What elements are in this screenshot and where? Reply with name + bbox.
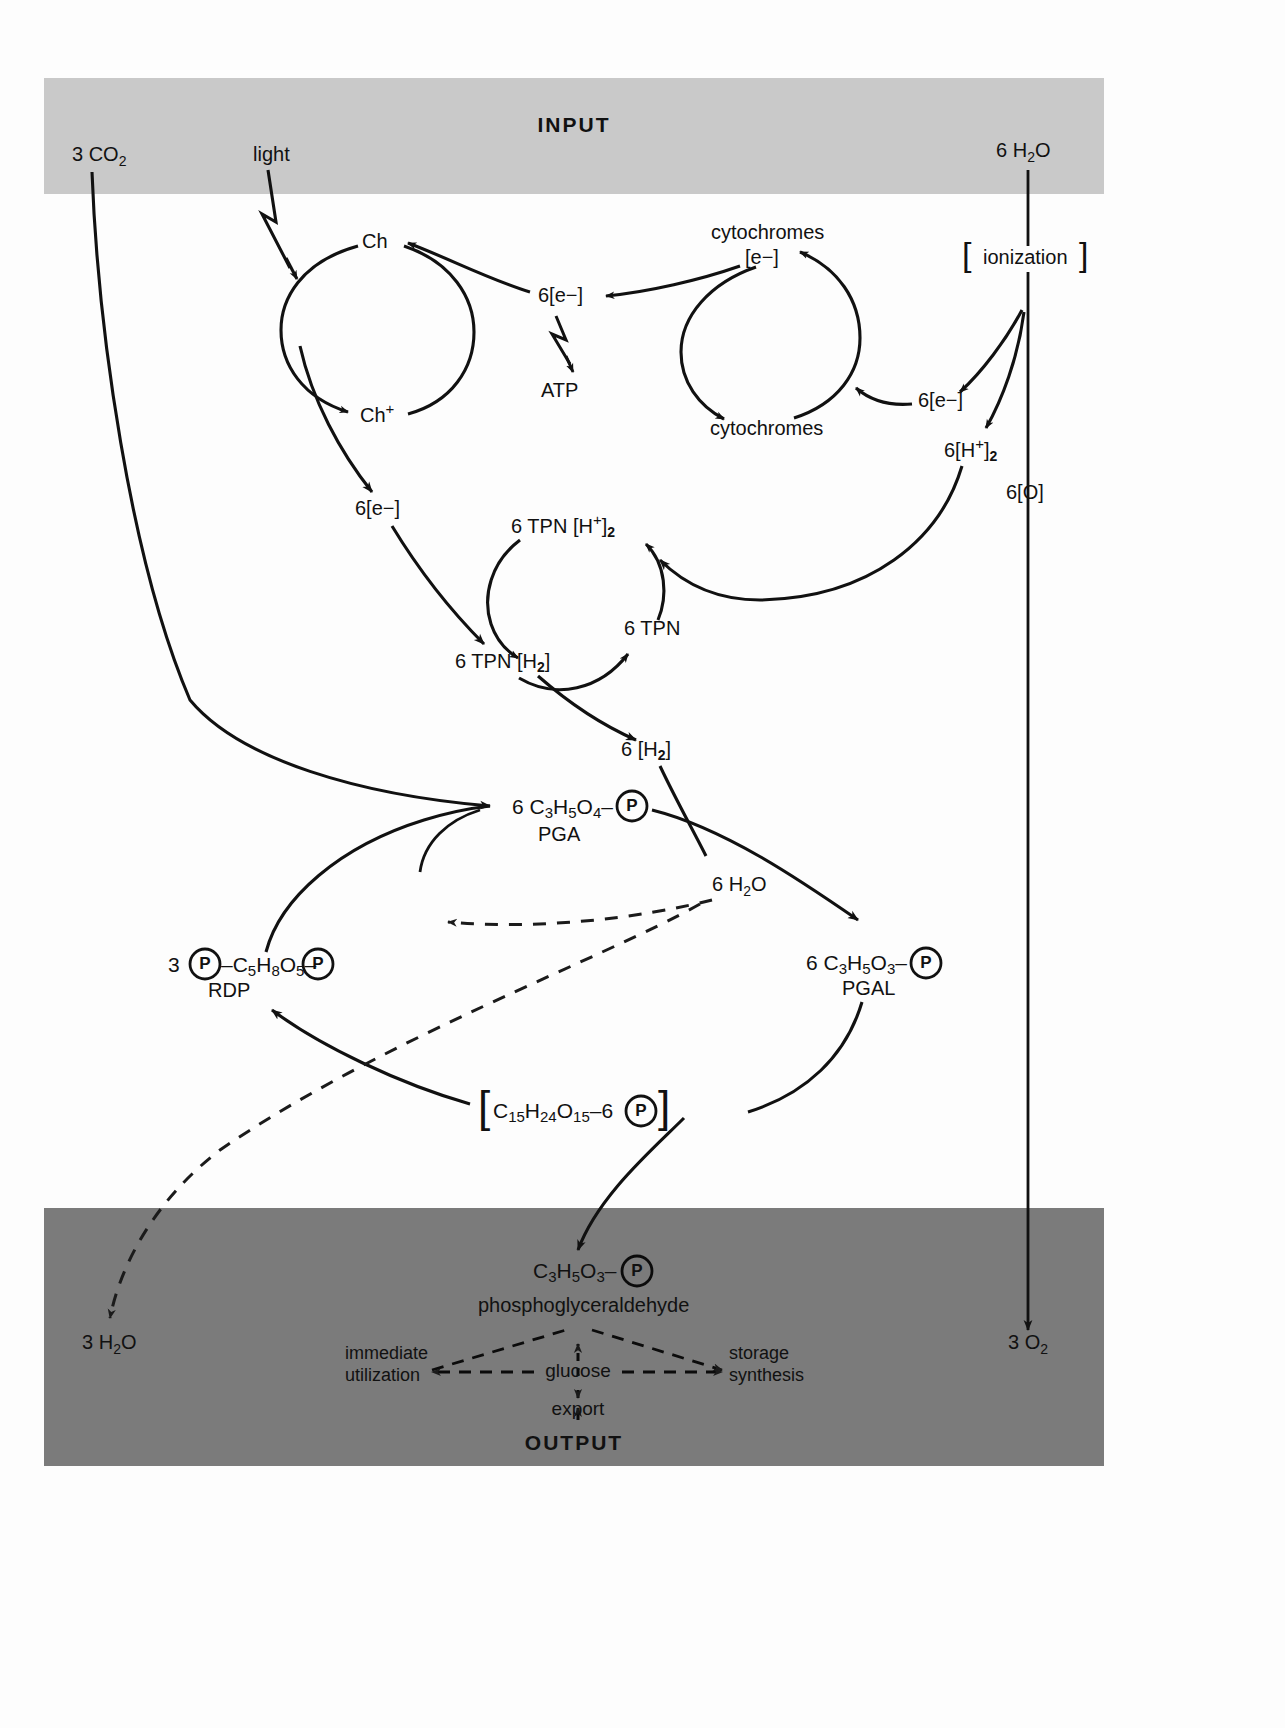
output-pgal-name-label: phosphoglyceraldehyde — [478, 1294, 689, 1316]
atp-label: ATP — [541, 379, 578, 401]
pgal-phosphate-glyph: P — [920, 953, 931, 972]
tpn-protons-label: 6 TPN [H+]2 — [511, 511, 615, 540]
light-lightning-arrow — [286, 258, 297, 279]
protons-label: 6[H+]2 — [944, 435, 997, 464]
tpn-label: 6 TPN — [624, 617, 680, 639]
rdp-phosphate-left-glyph: P — [199, 954, 210, 973]
atp-lightning-arrow — [566, 356, 573, 372]
hexose-formula: C15H24O15–6 — [493, 1099, 613, 1125]
hexose-to-rdp-arrow — [272, 1010, 470, 1104]
pga-phosphate-glyph: P — [626, 796, 637, 815]
rdp-count-label: 3 — [168, 953, 180, 976]
electrons-atp-label: 6[e−] — [538, 284, 583, 306]
output-phosphate-glyph: P — [631, 1261, 642, 1280]
chlorophyll-cation-label: Ch+ — [360, 400, 395, 426]
hydrogen-label: 6 [H2] — [621, 738, 671, 762]
pgal-formula: 6 C3H5O3– — [806, 951, 907, 977]
ch-cycle-right-arc — [404, 246, 474, 414]
pga-to-pgal-arrow — [652, 810, 858, 920]
ionization-bracket-open: [ — [962, 235, 972, 273]
ionization-to-protons-arrow — [986, 312, 1024, 428]
chlorophyll-label: Ch — [362, 230, 388, 252]
rdp-name-label: RDP — [208, 979, 250, 1001]
electrons-to-tpnh2-arrow — [392, 526, 484, 644]
photosynthesis-diagram: INPUT OUTPUT 3 CO2 light 6 H2O Ch Ch+ 6[… — [0, 0, 1285, 1728]
tpn-cycle-right-arc — [646, 544, 664, 620]
water-byproduct-label: 6 H2O — [712, 873, 766, 898]
pgal-name-label: PGAL — [842, 977, 895, 999]
hydrogen-to-pgal-arrow — [660, 766, 706, 856]
tpn-cycle-left-arc — [488, 540, 520, 658]
diagram-canvas: INPUT OUTPUT 3 CO2 light 6 H2O Ch Ch+ 6[… — [0, 0, 1285, 1728]
pga-formula: 6 C3H5O4– — [512, 795, 613, 821]
output-band-title: OUTPUT — [525, 1431, 623, 1454]
cyt-cycle-left-arc — [681, 267, 756, 419]
cyt-to-electrons-arrow — [606, 266, 740, 296]
input-water-label: 6 H2O — [996, 139, 1050, 164]
cyt-cycle-right-arc — [794, 252, 860, 418]
hexose-phosphate-glyph: P — [635, 1101, 646, 1120]
protons-to-tpn-arrow — [660, 466, 962, 600]
ionization-to-electrons-arrow — [960, 310, 1022, 392]
immediate-utilization-label-line1: immediate — [345, 1343, 428, 1363]
water-feedback-dashed-arrow — [448, 900, 712, 925]
export-label: export — [552, 1398, 606, 1419]
electrons-to-tpn-label: 6[e−] — [355, 497, 400, 519]
cytochromes-reduced-electrons-label: [e−] — [745, 246, 779, 268]
input-band-title: INPUT — [538, 113, 611, 136]
cytochromes-reduced-label: cytochromes — [711, 221, 824, 243]
pga-name-label: PGA — [538, 823, 581, 845]
tpn-h2-label: 6 TPN [H2] — [455, 650, 550, 674]
hexose-bracket-close: ] — [658, 1082, 670, 1131]
output-water-label: 3 H2O — [82, 1331, 136, 1356]
input-band — [44, 78, 1104, 194]
storage-synthesis-label-line2: synthesis — [729, 1365, 804, 1385]
input-light-label: light — [253, 143, 290, 165]
hexose-bracket-open: [ — [478, 1082, 490, 1131]
glucose-label: glucose — [545, 1360, 611, 1381]
rdp-to-pga-arrow — [266, 806, 490, 952]
electrons-to-cytochromes-arrow — [856, 388, 912, 404]
immediate-utilization-label-line2: utilization — [345, 1365, 420, 1385]
output-band — [44, 1208, 1104, 1466]
electrons-from-water-label: 6[e−] — [918, 389, 963, 411]
input-co2-label: 3 CO2 — [72, 143, 127, 168]
oxygen-atoms-label: 6[O] — [1006, 481, 1044, 503]
cytochromes-oxidized-label: cytochromes — [710, 417, 823, 439]
rdp-phosphate-right-glyph: P — [312, 954, 323, 973]
electrons-to-ch-arrow — [408, 243, 530, 292]
ionization-label: ionization — [983, 246, 1068, 268]
ionization-bracket-close: ] — [1079, 235, 1088, 273]
pgal-to-hexose-arrow — [748, 1002, 862, 1112]
storage-synthesis-label-line1: storage — [729, 1343, 789, 1363]
